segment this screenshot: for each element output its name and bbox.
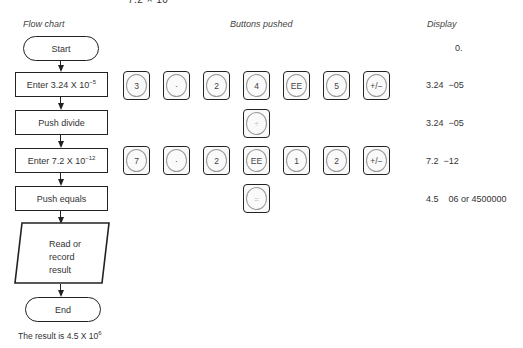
- key-decimal[interactable]: ·: [163, 71, 190, 100]
- key-5[interactable]: 5: [323, 71, 350, 100]
- flow-start-label: Start: [51, 44, 70, 54]
- display-after-divide: 3.24 −05: [426, 118, 464, 128]
- flow-step-push-divide-label: Push divide: [38, 118, 85, 128]
- flow-start-terminal: Start: [23, 36, 99, 61]
- flow-read-label: Read or record result: [49, 238, 81, 277]
- key-equals[interactable]: =: [243, 184, 270, 213]
- key-change-sign[interactable]: +/−: [363, 71, 390, 100]
- arrow-head-icon: [58, 65, 64, 72]
- flow-step-push-equals: Push equals: [15, 186, 108, 211]
- display-initial: 0.: [455, 43, 463, 53]
- flow-step-enter-second-label: Enter 7.2 X 10−12: [28, 155, 96, 166]
- arrow-head-icon: [58, 290, 64, 297]
- key-decimal[interactable]: ·: [163, 146, 190, 175]
- display-result: 4.5 06 or 4500000: [426, 194, 507, 204]
- key-change-sign[interactable]: +/−: [363, 146, 390, 175]
- header-buttons-pushed: Buttons pushed: [230, 19, 293, 29]
- key-1[interactable]: 1: [283, 146, 310, 175]
- flow-step-enter-second: Enter 7.2 X 10−12: [15, 148, 108, 173]
- key-7[interactable]: 7: [123, 146, 150, 175]
- top-cutoff-text: 7.2 × 10: [128, 0, 168, 5]
- flow-end-terminal: End: [25, 297, 101, 322]
- key-3[interactable]: 3: [123, 71, 150, 100]
- arrow-head-icon: [58, 141, 64, 148]
- flow-step-enter-first: Enter 3.24 X 10−5: [15, 72, 108, 97]
- arrow-head-icon: [58, 103, 64, 110]
- result-caption: The result is 4.5 X 106: [18, 330, 102, 341]
- key-ee[interactable]: EE: [283, 71, 310, 100]
- key-2[interactable]: 2: [203, 146, 230, 175]
- header-flow-chart: Flow chart: [23, 19, 65, 29]
- key-2[interactable]: 2: [323, 146, 350, 175]
- flow-step-push-divide: Push divide: [15, 110, 108, 135]
- key-ee[interactable]: EE: [243, 146, 270, 175]
- key-divide[interactable]: ÷: [243, 109, 270, 138]
- header-display: Display: [427, 19, 457, 29]
- flow-end-label: End: [55, 305, 71, 315]
- arrow-head-icon: [58, 179, 64, 186]
- key-2[interactable]: 2: [203, 71, 230, 100]
- display-after-first-entry: 3.24 −05: [426, 80, 464, 90]
- flow-step-push-equals-label: Push equals: [37, 194, 87, 204]
- flow-step-enter-first-label: Enter 3.24 X 10−5: [27, 79, 96, 90]
- key-4[interactable]: 4: [243, 71, 270, 100]
- display-after-second-entry: 7.2 −12: [426, 156, 459, 166]
